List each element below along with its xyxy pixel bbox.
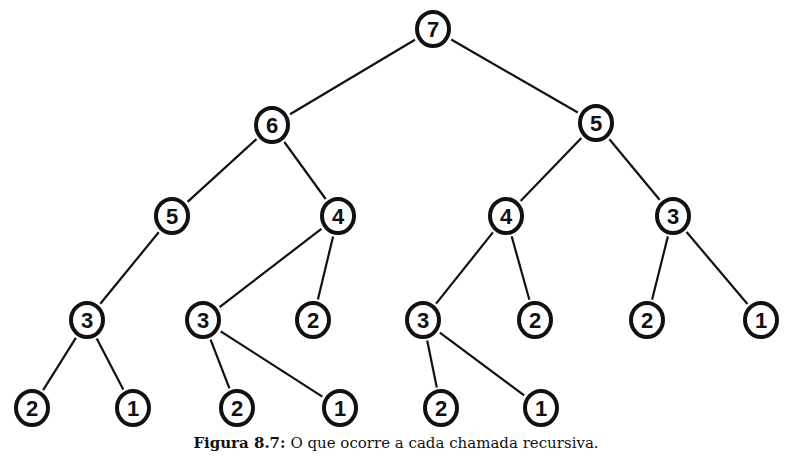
- node-label: 3: [197, 308, 209, 333]
- tree-edge: [451, 39, 578, 112]
- node-label: 2: [231, 396, 243, 421]
- figure-caption: Figura 8.7: O que ocorre a cada chamada …: [0, 434, 792, 452]
- tree-edge: [427, 341, 437, 388]
- tree-node: 3: [657, 199, 689, 233]
- tree-edge: [521, 138, 582, 201]
- tree-edge: [440, 333, 524, 396]
- node-label: 5: [166, 204, 178, 229]
- tree-node: 2: [519, 303, 551, 337]
- tree-node: 5: [580, 106, 612, 140]
- tree-node: 2: [297, 303, 329, 337]
- tree-edge: [97, 339, 124, 390]
- tree-edge: [290, 40, 415, 114]
- tree-node: 3: [187, 303, 219, 337]
- tree-edge: [100, 232, 158, 303]
- node-label: 5: [590, 111, 602, 136]
- tree-node: 2: [16, 391, 48, 425]
- node-label: 1: [535, 396, 547, 421]
- tree-edge: [43, 338, 76, 390]
- tree-edge: [188, 139, 257, 202]
- tree-edge: [211, 340, 230, 389]
- tree-node: 1: [117, 391, 149, 425]
- node-label: 1: [334, 396, 346, 421]
- node-label: 1: [127, 396, 139, 421]
- tree-node: 2: [221, 391, 253, 425]
- node-label: 7: [427, 17, 439, 42]
- tree-edge: [512, 236, 530, 300]
- tree-edge: [318, 236, 333, 299]
- tree-edge: [220, 229, 322, 307]
- tree-edge: [687, 232, 748, 304]
- tree-node: 4: [322, 199, 354, 233]
- tree-edge: [609, 139, 659, 200]
- tree-node: 1: [324, 391, 356, 425]
- recursion-tree: 76554433323221212121: [0, 0, 792, 458]
- tree-edge: [284, 142, 325, 199]
- tree-node: 1: [525, 391, 557, 425]
- tree-edges: [43, 39, 747, 396]
- node-label: 2: [435, 396, 447, 421]
- tree-node: 1: [745, 303, 777, 337]
- tree-edge: [436, 232, 493, 303]
- node-label: 4: [332, 204, 345, 229]
- tree-node: 5: [156, 199, 188, 233]
- node-label: 2: [26, 396, 38, 421]
- tree-node: 2: [631, 303, 663, 337]
- tree-node: 6: [256, 108, 288, 142]
- tree-nodes: 76554433323221212121: [16, 12, 777, 425]
- node-label: 3: [667, 204, 679, 229]
- node-label: 1: [755, 308, 767, 333]
- node-label: 3: [417, 308, 429, 333]
- tree-edge: [221, 331, 323, 396]
- tree-node: 7: [417, 12, 449, 46]
- caption-label: Figura 8.7:: [193, 434, 285, 452]
- tree-node: 2: [425, 391, 457, 425]
- node-label: 6: [266, 113, 278, 138]
- caption-text: O que ocorre a cada chamada recursiva.: [286, 434, 599, 452]
- node-label: 3: [81, 308, 93, 333]
- tree-edge: [652, 236, 668, 299]
- tree-node: 3: [71, 303, 103, 337]
- tree-node: 4: [490, 199, 522, 233]
- node-label: 2: [307, 308, 319, 333]
- node-label: 2: [641, 308, 653, 333]
- node-label: 4: [500, 204, 513, 229]
- node-label: 2: [529, 308, 541, 333]
- tree-node: 3: [407, 303, 439, 337]
